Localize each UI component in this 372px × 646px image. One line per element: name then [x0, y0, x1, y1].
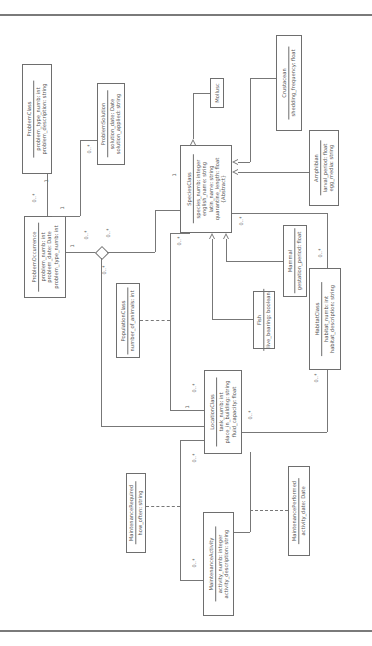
- assoc-habitat-location: [327, 370, 328, 432]
- attr: {Abstract}: [220, 158, 226, 221]
- assoc-solution-occurrence: [52, 216, 80, 217]
- class-maintenance-activity[interactable]: MaintenanceActivity activity_numb: integ…: [203, 512, 234, 616]
- multiplicity: 0..*: [191, 559, 197, 568]
- class-name: Amphibian: [312, 141, 320, 196]
- attr: activity_numb: integer: [217, 530, 223, 599]
- attr: solution_applied: string: [116, 94, 122, 155]
- generalization-arrow-icon: [232, 169, 238, 175]
- class-crustacean[interactable]: Crustacean shedding_frequency: float: [276, 35, 302, 131]
- class-problem-occurrence[interactable]: ProblemOccurrence problem_numb: int prob…: [24, 216, 66, 298]
- generalization-crustacean: [238, 162, 250, 163]
- attr: number_of_animals: int: [130, 290, 136, 351]
- generalization-arrow-icon: [223, 233, 229, 239]
- multiplicity: 1: [59, 206, 65, 209]
- multiplicity: 0..*: [101, 266, 107, 275]
- class-habitat-class[interactable]: HabitatClass habitat_numb: int habitat_d…: [309, 268, 341, 370]
- class-name: ProblemOccurrence: [30, 222, 38, 291]
- attr: english_name: string: [201, 158, 207, 221]
- assoc-diamond-species: [155, 210, 180, 211]
- class-name: ProblemClass: [25, 80, 33, 157]
- class-location-class[interactable]: LocationClass tank_numb: int place_in_bu…: [204, 370, 242, 454]
- multiplicity: 0..*: [238, 217, 244, 226]
- class-mammal[interactable]: Mammal gestation_period: float: [283, 225, 307, 297]
- assoc-occurrence-diamond: [66, 252, 98, 253]
- generalization-mammal: [226, 261, 283, 262]
- assoc-location-maintenance: [180, 580, 203, 581]
- attr: shedding_frequency: float: [291, 49, 297, 116]
- attr: problem_description: string: [42, 83, 48, 154]
- multiplicity: 0..*: [176, 237, 182, 246]
- ternary-diamond-icon: [95, 246, 109, 260]
- multiplicity: 1: [43, 179, 49, 182]
- assoc-location-maintenance: [180, 440, 204, 441]
- assoc-activity-performed: [250, 452, 251, 532]
- generalization-crustacean: [250, 78, 276, 79]
- assoc-diamond-location: [101, 258, 102, 426]
- attr: problem_date: Date: [47, 225, 53, 288]
- attr: activity_date: Date: [301, 481, 307, 541]
- multiplicity: 0..*: [105, 229, 111, 238]
- multiplicity: 0..*: [247, 411, 253, 420]
- class-mollusc[interactable]: Mollusc: [210, 78, 224, 108]
- class-amphibian[interactable]: Amphibian larval_period: float egg_media…: [309, 130, 339, 206]
- class-name: Fish: [255, 289, 263, 351]
- attr: problem_type_numb: int: [53, 225, 59, 288]
- class-name: Mammal: [286, 229, 294, 294]
- generalization-mollusc: [193, 93, 194, 139]
- generalization-arrow-icon: [209, 233, 215, 239]
- assoc-habitat-location: [242, 432, 327, 433]
- attr: live_bearing: boolean: [266, 292, 272, 348]
- generalization-mollusc: [193, 93, 210, 94]
- attr: place_in_building: string: [225, 381, 231, 444]
- multiplicity: 1: [184, 405, 190, 408]
- multiplicity: 0..*: [313, 374, 319, 383]
- attr: fluid_capacity: float: [231, 381, 237, 444]
- generalization-arrow-icon: [232, 159, 238, 165]
- bottom-rule: [0, 630, 372, 632]
- class-maintenance-performed[interactable]: MaintenancePerformed activity_date: Date: [288, 466, 310, 556]
- attr: habitat_description: string: [330, 285, 336, 353]
- multiplicity: 0..*: [31, 194, 37, 203]
- generalization-fish: [212, 319, 253, 320]
- class-name: MaintenancePerformed: [290, 478, 298, 544]
- class-name: Crustacean: [280, 46, 288, 119]
- class-name: MaintenanceActivity: [207, 527, 215, 602]
- multiplicity: 0..*: [191, 384, 197, 393]
- attr: how_often: string: [138, 485, 144, 542]
- generalization-mammal: [226, 239, 227, 261]
- multiplicity: 1: [171, 173, 177, 176]
- generalization-fish: [212, 239, 213, 319]
- multiplicity: 0..*: [86, 145, 92, 154]
- assoc-species-habitat: [327, 213, 328, 268]
- attr: gestation_period: float: [297, 232, 303, 291]
- class-name: SpeciesClass: [185, 155, 193, 224]
- class-maintenance-required[interactable]: MaintenanceRequired how_often: string: [126, 473, 146, 553]
- multiplicity: 1: [69, 244, 75, 247]
- class-name: Mollusc: [213, 80, 221, 105]
- top-rule: [0, 14, 372, 16]
- assoc-species-habitat: [232, 213, 327, 214]
- assoc-activity-performed: [234, 532, 250, 533]
- assoc-solution-occurrence: [80, 140, 97, 141]
- class-name: LocationClass: [208, 378, 216, 447]
- assoc-species-location: [170, 233, 190, 234]
- assoc-class-link: [250, 510, 288, 511]
- assoc-diamond-species: [155, 210, 156, 252]
- assoc-class-link: [140, 320, 170, 321]
- class-fish[interactable]: Fish live_bearing: boolean: [253, 291, 275, 349]
- class-name: MaintenanceRequired: [127, 482, 135, 545]
- class-name: PopulationClass: [119, 287, 127, 354]
- assoc-diamond-species: [107, 252, 155, 253]
- multiplicity: 0..*: [317, 249, 323, 258]
- multiplicity: 0..*: [83, 231, 89, 240]
- class-population-class[interactable]: PopulationClass number_of_animals: int: [116, 283, 140, 358]
- class-problem-solution[interactable]: ProblemSolution solution_date: Date solu…: [97, 83, 125, 165]
- multiplicity: 0..*: [191, 454, 197, 463]
- attr: egg_media: string: [329, 144, 335, 193]
- class-name: ProblemSolution: [99, 91, 107, 158]
- assoc-solution-occurrence: [80, 140, 81, 216]
- class-problem-class[interactable]: ProblemClass problem_type_numb: int prob…: [22, 64, 52, 174]
- class-name: HabitatClass: [313, 282, 321, 356]
- attr: latin_name: string: [208, 158, 214, 221]
- class-species-class[interactable]: SpeciesClass species_numb: integer engli…: [180, 145, 232, 233]
